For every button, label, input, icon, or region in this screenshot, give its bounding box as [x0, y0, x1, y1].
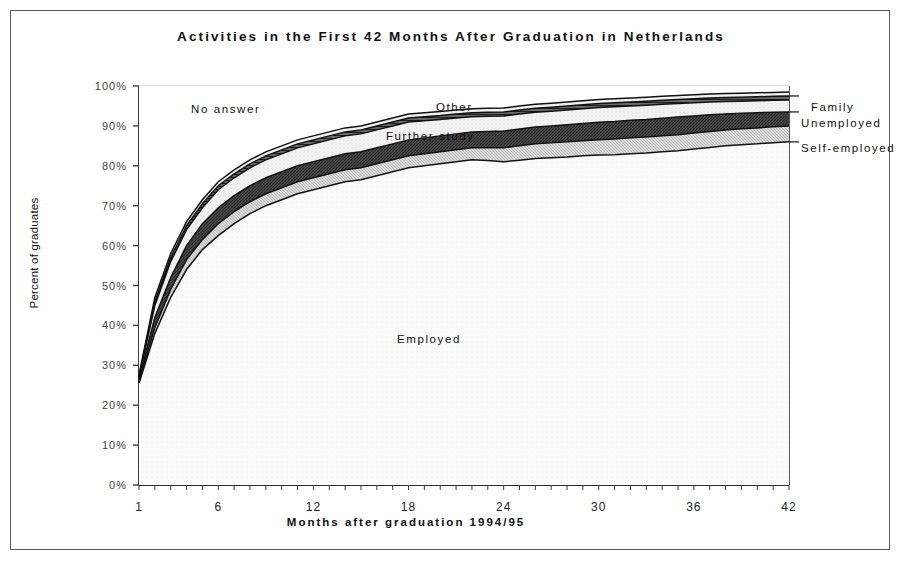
y-tick-label: 90%: [102, 120, 127, 132]
y-tick-label: 40%: [102, 319, 127, 331]
figure-frame: Activities in the First 42 Months After …: [10, 10, 890, 550]
y-tick-label: 70%: [102, 200, 127, 212]
plot-geometry: 0%10%20%30%40%50%60%70%80%90%100%1612182…: [95, 80, 799, 514]
series-label-other: Other: [436, 101, 473, 113]
y-tick-label: 10%: [102, 439, 127, 451]
series-label-unemployed: Unemployed: [801, 117, 882, 129]
y-tick-label: 60%: [102, 240, 127, 252]
x-tick-label: 42: [781, 500, 796, 514]
y-tick-label: 80%: [102, 160, 127, 172]
x-tick-label: 6: [214, 500, 222, 514]
y-tick-label: 20%: [102, 399, 127, 411]
y-tick-label: 100%: [95, 80, 127, 92]
y-tick-label: 30%: [102, 359, 127, 371]
x-tick-label: 24: [496, 500, 511, 514]
x-tick-label: 36: [686, 500, 701, 514]
x-tick-label: 12: [306, 500, 321, 514]
plot-area: 0%10%20%30%40%50%60%70%80%90%100%1612182…: [11, 11, 891, 551]
series-label-self-employed: Self-employed: [801, 142, 895, 154]
series-label-employed: Employed: [397, 333, 461, 345]
series-label-further-study: Further study: [386, 130, 475, 142]
x-tick-label: 18: [401, 500, 416, 514]
y-tick-label: 50%: [102, 280, 127, 292]
series-label-no-answer: No answer: [191, 103, 260, 115]
y-tick-label: 0%: [109, 479, 127, 491]
x-tick-label: 1: [135, 500, 143, 514]
x-tick-label: 30: [591, 500, 606, 514]
series-label-family: Family: [811, 101, 854, 113]
